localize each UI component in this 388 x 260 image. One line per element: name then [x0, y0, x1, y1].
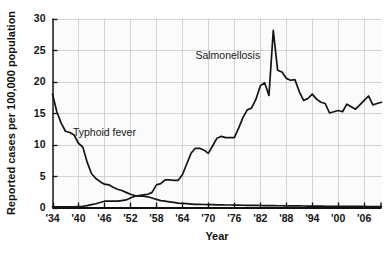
x-tick-label: '58 [149, 212, 163, 224]
x-tick-label: '06 [357, 212, 371, 224]
y-tick-label: 5 [40, 170, 46, 182]
x-tick-label: '00 [331, 212, 345, 224]
y-tick-label: 10 [34, 138, 46, 150]
y-axis-title: Reported cases per 100,000 population [5, 11, 17, 215]
annotation-salmonellosis: Salmonellosis [195, 49, 260, 61]
chart-figure: '34'40'46'52'58'64'70'76'82'88'94'00'06 … [0, 0, 388, 260]
x-axis-title: Year [205, 230, 229, 242]
x-tick-label: '46 [97, 212, 111, 224]
x-tick-label: '64 [175, 212, 189, 224]
annotation-typhoid-fever: Typhoid fever [73, 126, 137, 138]
x-tick-label: '88 [279, 212, 293, 224]
x-tick-label: '40 [71, 212, 85, 224]
y-tick-label: 15 [34, 107, 46, 119]
y-tick-label: 0 [40, 201, 46, 213]
incidence-line-chart: '34'40'46'52'58'64'70'76'82'88'94'00'06 … [0, 0, 388, 260]
x-tick-label: '70 [201, 212, 215, 224]
y-tick-label: 25 [34, 44, 46, 56]
y-tick-label: 30 [34, 12, 46, 24]
x-tick-label: '82 [253, 212, 267, 224]
x-tick-label: '34 [45, 212, 59, 224]
x-tick-label: '94 [305, 212, 319, 224]
x-tick-label: '52 [123, 212, 137, 224]
x-tick-label: '76 [227, 212, 241, 224]
y-tick-label: 20 [34, 75, 46, 87]
